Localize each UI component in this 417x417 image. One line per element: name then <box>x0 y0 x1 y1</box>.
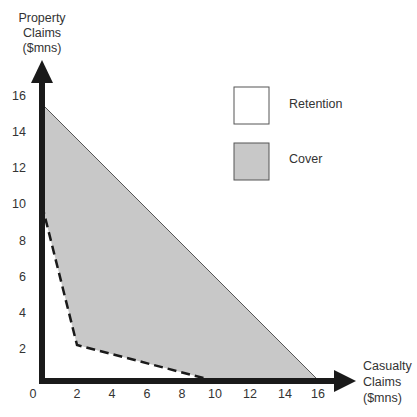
x-axis-title-line-1: Casualty <box>363 359 412 373</box>
x-axis-arrow-icon <box>334 370 356 392</box>
y-tick-2: 2 <box>19 342 26 356</box>
x-tick-2: 2 <box>74 387 81 401</box>
origin-label: 0 <box>30 387 37 401</box>
x-axis-title-line-3: ($mns) <box>363 391 402 405</box>
y-tick-14: 14 <box>12 125 26 139</box>
legend-swatch-retention <box>234 87 269 124</box>
x-tick-4: 4 <box>109 387 116 401</box>
y-axis-title-line-3: ($mns) <box>23 41 62 55</box>
y-tick-4: 4 <box>19 306 26 320</box>
chart-canvas: 16 14 12 10 8 6 4 2 0 2 4 6 8 10 12 14 1… <box>0 0 417 417</box>
y-tick-12: 12 <box>12 161 26 175</box>
x-axis-title-line-2: Claims <box>363 375 401 389</box>
legend-label-retention: Retention <box>289 97 343 111</box>
y-axis-title-line-2: Claims <box>23 26 61 40</box>
x-tick-8: 8 <box>179 387 186 401</box>
y-tick-10: 10 <box>12 197 26 211</box>
x-tick-6: 6 <box>144 387 151 401</box>
x-tick-12: 12 <box>243 387 257 401</box>
x-tick-10: 10 <box>208 387 222 401</box>
y-axis-arrow-icon <box>31 60 53 83</box>
y-axis-title-line-1: Property <box>18 11 66 25</box>
x-tick-16: 16 <box>311 387 325 401</box>
y-tick-6: 6 <box>19 270 26 284</box>
legend-swatch-cover <box>234 143 269 180</box>
y-tick-8: 8 <box>19 234 26 248</box>
legend-label-cover: Cover <box>289 152 322 166</box>
x-tick-14: 14 <box>278 387 292 401</box>
y-tick-16: 16 <box>12 89 26 103</box>
